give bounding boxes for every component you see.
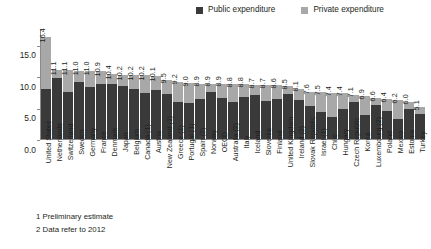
- bar-segment-public: [118, 86, 128, 139]
- bar-column: 6.9: [360, 30, 370, 139]
- x-axis-label-cell: Sweden: [74, 142, 84, 204]
- bar-value-label: 8.1: [292, 81, 299, 91]
- x-axis-label-cell: Mexico: [393, 142, 403, 204]
- x-axis-label-cell: Denmark: [107, 142, 117, 204]
- x-axis-label-cell: Hungary: [338, 142, 348, 204]
- y-axis-tick-label: 5.0: [24, 113, 40, 123]
- x-axis-label-cell: Finland: [272, 142, 282, 204]
- bar-value-label: 7.4: [325, 86, 332, 96]
- footnotes: 1 Preliminary estimate2 Data refer to 20…: [36, 210, 113, 236]
- bar-value-label: 9.2: [171, 75, 178, 85]
- x-axis-label-cell: Slovenia: [261, 142, 271, 204]
- x-axis-label-cell: Slovak Republic: [305, 142, 315, 204]
- bar-column: 10.2: [140, 30, 150, 139]
- bar-column: 11.0: [85, 30, 95, 139]
- bar-value-label: 6.2: [391, 93, 398, 103]
- x-axis-label-cell: Iceland: [250, 142, 260, 204]
- bar-value-label: 8.9: [215, 77, 222, 87]
- x-axis-label-cell: Japan: [118, 142, 128, 204]
- bar-column: 10.1: [151, 30, 161, 139]
- bar-value-label: 6.4: [380, 92, 387, 102]
- x-axis-label-cell: Estonia: [404, 142, 414, 204]
- x-axis-label-cell: New Zealand (1): [162, 142, 172, 204]
- bar-value-label: 6.0: [402, 95, 409, 105]
- stacked-bar: 10.2: [118, 75, 128, 139]
- bar-value-label: 8.5: [281, 79, 288, 89]
- bar-value-label: 8.7: [259, 78, 266, 88]
- y-axis-tick-label: 0.0: [24, 145, 40, 155]
- bar-column: 11.0: [74, 30, 84, 139]
- x-axis-label-cell: Canada (1): [140, 142, 150, 204]
- x-axis-label: Turkey: [420, 131, 427, 152]
- stacked-bar: 8.9: [217, 84, 227, 139]
- stacked-bar: 8.8: [239, 84, 249, 139]
- bar-value-label: 9.5: [160, 73, 167, 83]
- bar-column: 6.0: [404, 30, 414, 139]
- x-axis-label-cell: United Kingdom: [283, 142, 293, 204]
- x-axis-label-cell: Korea: [360, 142, 370, 204]
- x-axis-label-cell: Italy: [239, 142, 249, 204]
- bar-column: 6.4: [382, 30, 392, 139]
- x-axis-label-cell: Czech Republic: [349, 142, 359, 204]
- x-axis-labels: United StatesNetherlandsSwitzerlandSwede…: [41, 142, 425, 204]
- bar-value-label: 7.4: [336, 86, 343, 96]
- y-axis-tick-mark: [37, 140, 40, 141]
- bar-column: 10.9: [96, 30, 106, 139]
- bar-column: 10.2: [129, 30, 139, 139]
- bar-value-label: 8.9: [204, 77, 211, 87]
- bar-value-label: 8.7: [248, 78, 255, 88]
- legend-item-label: Private expenditure: [313, 6, 384, 14]
- x-axis-label-cell: France: [96, 142, 106, 204]
- x-axis-label-cell: Norway: [206, 142, 216, 204]
- bar-value-label: 10.2: [127, 66, 134, 80]
- bar-value-label: 6.6: [369, 91, 376, 101]
- x-axis-label-cell: Poland: [382, 142, 392, 204]
- x-axis-label-cell: Greece (1): [173, 142, 183, 204]
- x-axis-label-cell: Turkey: [415, 142, 425, 204]
- x-axis-label-cell: Portugal (1): [184, 142, 194, 204]
- footnote: 1 Preliminary estimate: [36, 210, 113, 223]
- y-axis-tick-label: 15.0: [20, 50, 40, 60]
- x-axis-label-cell: Luxembourg (2): [371, 142, 381, 204]
- x-axis-label-cell: Spain (2): [195, 142, 205, 204]
- bar-value-label: 8.8: [237, 77, 244, 87]
- bar-value-label: 11.1: [50, 61, 57, 75]
- bar-value-label: 10.4: [105, 65, 112, 79]
- bar-value-label: 10.2: [138, 66, 145, 80]
- bar-column: 10.4: [107, 30, 117, 139]
- stacked-bar: 7.4: [327, 93, 337, 139]
- bar-column: 6.2: [393, 30, 403, 139]
- bar-value-label: 9.0: [182, 76, 189, 86]
- legend-item: Public expenditure: [196, 6, 275, 14]
- x-axis-label-cell: Switzerland: [63, 142, 73, 204]
- bar-column: 10.2: [118, 30, 128, 139]
- legend-item: Private expenditure: [301, 6, 384, 14]
- bar-segment-private: [327, 93, 337, 117]
- x-axis-label-cell: Belgium: [129, 142, 139, 204]
- legend-item-label: Public expenditure: [208, 6, 275, 14]
- bar-value-label: 10.1: [149, 67, 156, 81]
- bar-value-label: 11.1: [61, 61, 68, 75]
- stacked-bar: 10.1: [151, 76, 161, 139]
- bar-value-label: 8.9: [193, 77, 200, 87]
- legend-swatch-icon: [196, 7, 203, 14]
- x-axis-label-cell: OECD: [217, 142, 227, 204]
- chart-container: Public expenditurePrivate expenditure 0.…: [0, 0, 431, 249]
- x-axis-label-cell: Ireland (2): [294, 142, 304, 204]
- x-axis-label-cell: United States: [41, 142, 51, 204]
- bar-value-label: 6.9: [358, 89, 365, 99]
- x-axis-label-cell: Austria: [151, 142, 161, 204]
- bar-column: 5.1: [415, 30, 425, 139]
- bar-segment-public: [239, 97, 249, 139]
- bar-value-label: 10.2: [116, 66, 123, 80]
- x-axis-label-cell: Israel (1): [316, 142, 326, 204]
- bar-column: 7.4: [338, 30, 348, 139]
- x-axis-label-cell: Australia (2): [228, 142, 238, 204]
- x-axis-label-cell: Chile: [327, 142, 337, 204]
- bar-value-label: 7.1: [347, 88, 354, 98]
- bar-column: 7.4: [327, 30, 337, 139]
- bar-value-label: 7.6: [303, 85, 310, 95]
- y-axis-tick-mark: [37, 46, 40, 47]
- x-axis-label-cell: Germany: [85, 142, 95, 204]
- footnote: 2 Data refer to 2012: [36, 223, 113, 236]
